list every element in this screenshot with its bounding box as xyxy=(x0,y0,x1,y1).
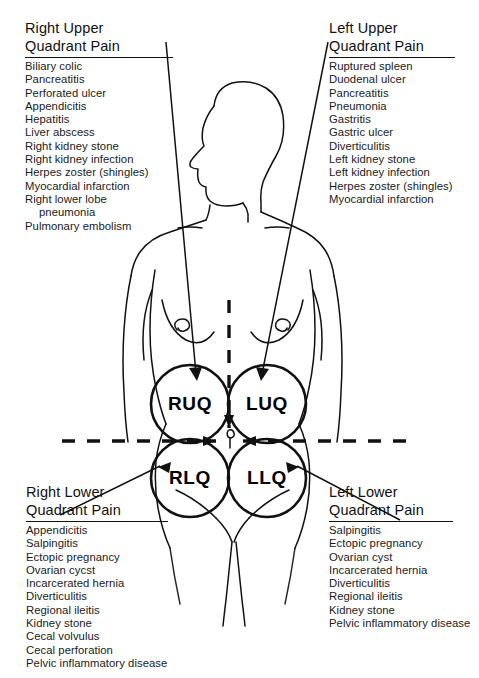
condition-item: Appendicitis xyxy=(26,524,168,537)
condition-item: Myocardial infarction xyxy=(329,193,455,206)
condition-item: Pancreatitis xyxy=(329,87,455,100)
condition-item: Right kidney infection xyxy=(25,153,173,166)
left-upper-quadrant-list: Ruptured spleenDuodenal ulcerPancreatiti… xyxy=(329,60,455,206)
pubic-v xyxy=(216,518,249,542)
condition-item: Hepatitis xyxy=(25,113,173,126)
condition-item: Kidney stone xyxy=(329,604,470,617)
quadrant-label-luq: LUQ xyxy=(246,393,288,415)
condition-item: Regional ileitis xyxy=(26,604,168,617)
condition-item: Pelvic inflammatory disease xyxy=(329,617,470,630)
condition-item: Biliary colic xyxy=(25,60,173,73)
head-outline xyxy=(214,82,284,212)
condition-item: Cecal volvulus xyxy=(26,630,168,643)
left-upper-quadrant-title: Left Upper Quadrant Pain xyxy=(329,20,455,55)
right-upper-quadrant-divider xyxy=(25,57,173,58)
arm-left-outer xyxy=(123,276,131,442)
condition-item: Cecal perforation xyxy=(26,644,168,657)
groin-crease-left xyxy=(176,490,216,518)
left-lower-quadrant-title: Left Lower Quadrant Pain xyxy=(329,484,470,519)
condition-item: Herpes zoster (shingles) xyxy=(329,180,455,193)
left-lower-quadrant-divider xyxy=(329,521,453,522)
shoulder-right xyxy=(261,212,334,276)
navel xyxy=(227,430,234,448)
condition-item: Appendicitis xyxy=(25,100,173,113)
condition-item: Perforated ulcer xyxy=(25,87,173,100)
right-lower-quadrant-divider xyxy=(26,521,168,522)
clavicle-right xyxy=(265,227,289,228)
left-upper-quadrant-divider xyxy=(329,57,455,58)
jaw-neck xyxy=(243,203,248,222)
quadrant-label-rlq: RLQ xyxy=(169,467,211,489)
condition-item: Left kidney infection xyxy=(329,166,455,179)
thigh-left-inner xyxy=(223,542,232,626)
nipple-right xyxy=(276,319,291,331)
condition-item: Ectopic pregnancy xyxy=(26,551,168,564)
condition-item: Diverticulitis xyxy=(329,140,455,153)
condition-item: Gastric ulcer xyxy=(329,126,455,139)
quadrant-label-llq: LLQ xyxy=(247,467,287,489)
condition-item: Duodenal ulcer xyxy=(329,73,455,86)
condition-item: Incarcerated hernia xyxy=(329,564,470,577)
right-lower-quadrant-title: Right Lower Quadrant Pain xyxy=(26,484,168,519)
condition-item: Gastritis xyxy=(329,113,455,126)
condition-item: Herpes zoster (shingles) xyxy=(25,166,173,179)
condition-item: Pulmonary embolism xyxy=(25,220,173,233)
condition-item: Diverticulitis xyxy=(26,590,168,603)
thigh-right-inner xyxy=(236,542,245,626)
condition-item: Salpingitis xyxy=(26,537,168,550)
left-lower-quadrant-list: SalpingitisEctopic pregnancyOvarian cyst… xyxy=(329,524,470,630)
right-upper-quadrant-title: Right Upper Quadrant Pain xyxy=(25,20,173,55)
condition-item: Myocardial infarction xyxy=(25,180,173,193)
clavicle-left xyxy=(178,227,202,228)
condition-item: Left kidney stone xyxy=(329,153,455,166)
neck-left xyxy=(206,205,210,220)
condition-item: Right kidney stone xyxy=(25,140,173,153)
condition-item: Pancreatitis xyxy=(25,73,173,86)
condition-item: Pelvic inflammatory disease xyxy=(26,657,168,670)
condition-item: Ovarian cycst xyxy=(26,564,168,577)
right-lower-quadrant-panel: Right Lower Quadrant Pain AppendicitisSa… xyxy=(26,484,168,670)
condition-item: Liver abscess xyxy=(25,126,173,139)
right-lower-quadrant-list: AppendicitisSalpingitisEctopic pregnancy… xyxy=(26,524,168,670)
condition-item: Diverticulitis xyxy=(329,577,470,590)
condition-item: Ectopic pregnancy xyxy=(329,537,470,550)
thigh-left-outer xyxy=(170,548,180,604)
condition-item: pneumonia xyxy=(25,206,173,219)
condition-item: Regional ileitis xyxy=(329,590,470,603)
condition-item: Kidney stone xyxy=(26,617,168,630)
right-upper-quadrant-panel: Right Upper Quadrant Pain Biliary colicP… xyxy=(25,20,173,233)
condition-item: Ovarian cyst xyxy=(329,551,470,564)
nipple-left xyxy=(175,319,190,331)
condition-item: Right lower lobe xyxy=(25,193,173,206)
thigh-right-outer xyxy=(285,548,295,604)
condition-item: Salpingitis xyxy=(329,524,470,537)
left-lower-quadrant-panel: Left Lower Quadrant Pain SalpingitisEcto… xyxy=(329,484,470,630)
left-upper-quadrant-panel: Left Upper Quadrant Pain Ruptured spleen… xyxy=(329,20,455,206)
face-profile xyxy=(190,106,243,206)
condition-item: Pneumonia xyxy=(329,100,455,113)
right-upper-quadrant-list: Biliary colicPancreatitisPerforated ulce… xyxy=(25,60,173,233)
quadrant-label-ruq: RUQ xyxy=(168,393,212,415)
condition-item: Incarcerated hernia xyxy=(26,577,168,590)
condition-item: Ruptured spleen xyxy=(329,60,455,73)
arm-right-outer xyxy=(334,276,342,442)
